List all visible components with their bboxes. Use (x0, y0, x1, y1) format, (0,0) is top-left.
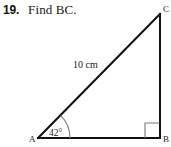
vertex-label-a: A (29, 134, 36, 144)
vertex-label-b: B (163, 134, 169, 144)
geometry-problem: 19. Find BC. A B C 10 cm 42° (0, 0, 171, 147)
hypotenuse-length-label: 10 cm (73, 59, 98, 70)
vertex-label-c: C (163, 4, 169, 14)
right-angle-mark-b (145, 123, 160, 138)
triangle-figure: A B C 10 cm 42° (0, 0, 171, 147)
angle-measure-label-a: 42° (49, 128, 63, 138)
side-ac-line (38, 14, 160, 138)
